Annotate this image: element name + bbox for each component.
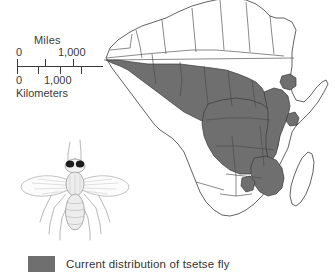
scale-bar-km-min: 0 xyxy=(16,74,22,87)
scale-bar-miles-max: 1,000 xyxy=(58,46,86,59)
scale-bar-miles-min: 0 xyxy=(16,46,22,59)
tsetse-fly-illustration xyxy=(18,138,134,250)
scale-bar-tick-miles-1000 xyxy=(73,59,74,67)
fly-antenna-right xyxy=(80,140,81,162)
legend-swatch-distribution xyxy=(28,256,55,272)
madagascar-outline xyxy=(290,152,314,206)
tsetse-fly-distribution-figure: Miles 0 1,000 0 1,000 Kilometers xyxy=(0,0,335,279)
map-legend: Current distribution of tsetse fly xyxy=(28,256,230,272)
fly-eye-left xyxy=(66,160,74,167)
fly-eye-right xyxy=(76,160,84,167)
scale-bar-tick-km-extra xyxy=(81,66,82,74)
legend-label-distribution: Current distribution of tsetse fly xyxy=(66,257,230,271)
scale-bar-tick-km-mid xyxy=(38,66,39,74)
fly-wing-left xyxy=(21,176,68,197)
scale-bar-km-max: 1,000 xyxy=(44,74,72,87)
scale-bar-tick-km-1000 xyxy=(60,66,61,74)
scale-bar-tick-km-0 xyxy=(17,66,18,74)
fly-antenna-left xyxy=(68,142,70,162)
scale-bar-tick-miles-mid xyxy=(45,59,46,67)
fly-wing-right xyxy=(82,176,129,197)
